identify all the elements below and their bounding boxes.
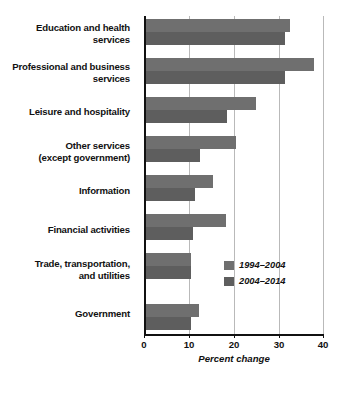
bar-chart: Education and health services Profession… <box>0 0 351 395</box>
category-label: Other services (except government) <box>38 140 130 163</box>
bar-education-1994-2004 <box>146 19 290 32</box>
category-label: Information <box>79 185 130 197</box>
bar-government-1994-2004 <box>146 304 199 317</box>
bar-financial-2004-2014 <box>146 227 193 240</box>
category-label: Trade, transportation, and utilities <box>35 258 130 281</box>
category-label: Professional and business services <box>12 61 130 84</box>
legend: 1994–2004 2004–2014 <box>224 258 286 290</box>
category-label: Financial activities <box>48 224 130 236</box>
gridline-40 <box>323 16 324 334</box>
legend-label: 2004–2014 <box>239 276 286 286</box>
x-tick-label: 10 <box>184 339 195 350</box>
bar-other-services-2004-2014 <box>146 149 200 162</box>
x-tick-10 <box>189 334 190 338</box>
legend-swatch-icon <box>224 277 234 286</box>
bar-leisure-1994-2004 <box>146 97 256 110</box>
x-tick-0 <box>144 334 145 338</box>
bar-other-services-1994-2004 <box>146 136 236 149</box>
x-tick-label: 40 <box>318 339 329 350</box>
category-axis-labels: Education and health services Profession… <box>0 16 137 334</box>
bar-trade-1994-2004 <box>146 253 191 266</box>
category-label: Education and health services <box>36 22 130 45</box>
bar-financial-1994-2004 <box>146 214 226 227</box>
bar-professional-2004-2014 <box>146 71 286 84</box>
x-tick-40 <box>323 334 324 338</box>
x-tick-label: 20 <box>229 339 240 350</box>
bar-leisure-2004-2014 <box>146 110 227 123</box>
category-label: Government <box>75 308 130 320</box>
legend-label: 1994–2004 <box>239 260 286 270</box>
x-tick-20 <box>234 334 235 338</box>
legend-swatch-icon <box>224 261 234 270</box>
x-tick-label: 30 <box>274 339 285 350</box>
bar-government-2004-2014 <box>146 317 191 330</box>
bar-education-2004-2014 <box>146 32 286 45</box>
x-tick-label: 0 <box>141 339 146 350</box>
bar-professional-1994-2004 <box>146 58 315 71</box>
legend-item: 2004–2014 <box>224 274 286 288</box>
x-axis-title: Percent change <box>198 353 269 364</box>
bar-information-2004-2014 <box>146 188 196 201</box>
bar-information-1994-2004 <box>146 175 214 188</box>
category-label: Leisure and hospitality <box>29 106 130 118</box>
bar-trade-2004-2014 <box>146 266 191 279</box>
x-tick-30 <box>279 334 280 338</box>
legend-item: 1994–2004 <box>224 258 286 272</box>
